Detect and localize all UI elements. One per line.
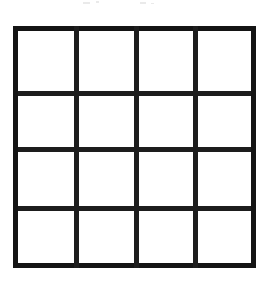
scan-speckle-artifact — [140, 2, 146, 4]
grid-line-vertical-2 — [134, 26, 139, 268]
grid-line-vertical-3 — [193, 26, 198, 268]
grid-line-vertical-left — [13, 26, 18, 268]
grid-line-vertical-right — [251, 26, 256, 268]
grid-figure — [13, 26, 256, 268]
scan-speckle-artifact — [96, 1, 99, 3]
scan-speckle-artifact — [83, 2, 90, 4]
figure-canvas — [0, 0, 272, 284]
grid-line-vertical-1 — [74, 26, 79, 268]
scan-speckle-artifact — [151, 3, 154, 4]
